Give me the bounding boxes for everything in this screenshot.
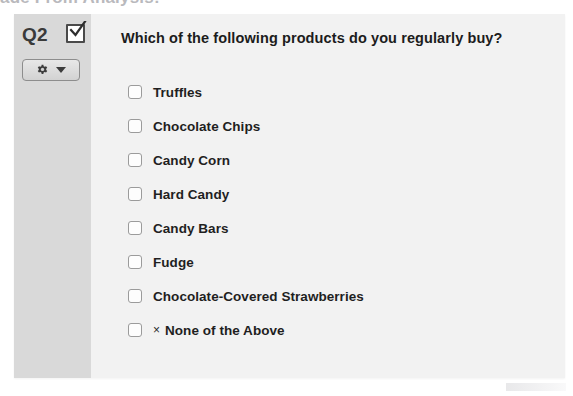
answer-option-row[interactable]: ×None of the Above xyxy=(128,313,557,347)
answer-option-row[interactable]: Chocolate-Covered Strawberries xyxy=(128,279,557,313)
answer-option-label: Candy Corn xyxy=(153,153,230,168)
chevron-down-icon xyxy=(56,67,66,73)
answer-option-label: Chocolate-Covered Strawberries xyxy=(153,289,364,304)
answer-option-label: Truffles xyxy=(153,85,202,100)
answer-option-row[interactable]: Truffles xyxy=(128,75,557,109)
answer-option-label: None of the Above xyxy=(165,323,285,338)
checked-checkbox-icon xyxy=(66,24,85,43)
answer-option-row[interactable]: Fudge xyxy=(128,245,557,279)
answer-checkbox[interactable] xyxy=(128,255,142,269)
question-title: Which of the following products do you r… xyxy=(121,30,503,46)
answer-option-label: Candy Bars xyxy=(153,221,229,236)
question-number-label: Q2 xyxy=(22,24,48,46)
question-body: Which of the following products do you r… xyxy=(91,14,565,378)
answer-checkbox[interactable] xyxy=(128,153,142,167)
answer-checkbox[interactable] xyxy=(128,221,142,235)
answer-option-prefix-icon: × xyxy=(153,324,160,336)
answer-option-label: Fudge xyxy=(153,255,194,270)
question-gutter: Q2 xyxy=(14,14,91,378)
answer-checkbox[interactable] xyxy=(128,323,142,337)
answer-checkbox[interactable] xyxy=(128,85,142,99)
cropped-heading-text: ade From Analysis: xyxy=(0,0,300,10)
answer-checkbox[interactable] xyxy=(128,187,142,201)
answer-option-row[interactable]: Chocolate Chips xyxy=(128,109,557,143)
answer-option-row[interactable]: Candy Bars xyxy=(128,211,557,245)
question-card: Q2 Which of the following products do yo… xyxy=(14,14,565,378)
answer-option-label: Chocolate Chips xyxy=(153,119,260,134)
scan-artifact xyxy=(506,383,566,391)
answer-checkbox[interactable] xyxy=(128,289,142,303)
answer-checkbox[interactable] xyxy=(128,119,142,133)
question-settings-button[interactable] xyxy=(22,59,80,81)
gear-icon xyxy=(36,64,49,77)
answer-option-row[interactable]: Candy Corn xyxy=(128,143,557,177)
answer-option-label: Hard Candy xyxy=(153,187,229,202)
answer-options-list: TrufflesChocolate ChipsCandy CornHard Ca… xyxy=(128,75,557,347)
answer-option-row[interactable]: Hard Candy xyxy=(128,177,557,211)
